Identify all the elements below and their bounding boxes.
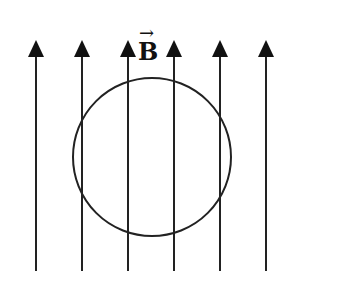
diagram-drawing [0, 0, 356, 294]
current-loop-circle [73, 78, 231, 236]
arrowhead-up-icon [28, 40, 44, 57]
magnetic-field-diagram: → B [0, 0, 356, 294]
arrowhead-up-icon [166, 40, 182, 57]
arrowhead-up-icon [258, 40, 274, 57]
arrowhead-up-icon [120, 40, 136, 57]
field-label-B: → B [138, 40, 158, 64]
arrowhead-up-icon [212, 40, 228, 57]
vector-arrow-icon: → [139, 24, 154, 42]
arrowhead-up-icon [74, 40, 90, 57]
